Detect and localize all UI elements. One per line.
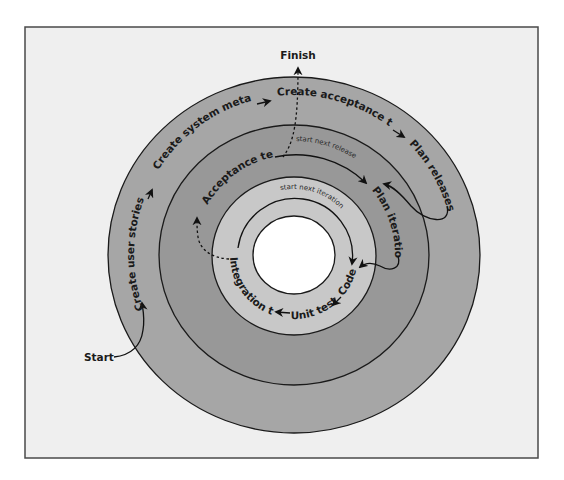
finish-label: Finish: [280, 49, 316, 61]
xp-process-diagram: Start Finish Create user stories Create …: [0, 0, 564, 480]
core-circle: [253, 216, 335, 294]
start-label: Start: [84, 351, 114, 363]
